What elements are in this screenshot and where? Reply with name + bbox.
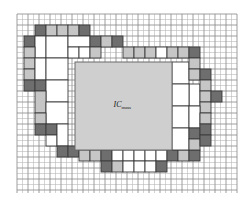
figure-root: ICmass <box>0 0 251 204</box>
interior-block-label-main: IC <box>114 100 122 109</box>
interior-block-label: ICmass <box>114 101 131 109</box>
interior-block-label-subscript: mass <box>122 105 131 110</box>
